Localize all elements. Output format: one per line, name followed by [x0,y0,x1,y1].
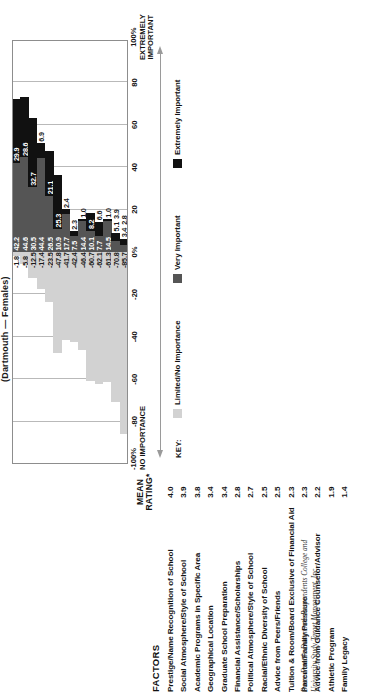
mean-rating-value: 2.7 [246,472,255,512]
arrow-head-right-icon [157,46,163,54]
x-axis-tick-label: 60 [130,121,139,129]
arrow-shaft [160,54,161,450]
mean-rating-value: 2.3 [287,472,296,512]
mean-rating-line2: RATING* [145,472,154,512]
x-axis-tick-label: 40 [130,163,139,171]
chart-sheet: (Dartmouth — Females) FACTORS MEAN RATIN… [0,0,365,698]
mean-rating-value: 3.8 [193,472,202,512]
mean-rating-value: 2.2 [313,472,322,512]
mean-rating-value: 3.4 [220,472,229,512]
legend-swatch [173,274,182,283]
mean-rating-value: 2.5 [273,472,282,512]
x-axis-tick-label: 80 [130,78,139,86]
factor-label: Racial/Ethnic Diversity of School [260,567,269,692]
factor-label: Financial Assistance/Scholarships [233,561,242,692]
chart-title: (Dartmouth — Females) [0,276,10,382]
importance-direction-arrow [156,46,165,458]
legend-key-label: KEY: [174,439,183,458]
legend-swatch [173,409,182,418]
mean-rating-value: 4.0 [166,472,175,512]
x-axis-tick-label: -40 [130,331,139,342]
legend-label: Extremely Important [173,80,182,155]
legend-label: Very Important [173,215,182,270]
mean-rating-value: 2.5 [260,472,269,512]
x-axis-tick-label: 20 [130,205,139,213]
factor-label: Social Atmosphere/Style of School [179,560,188,692]
factor-label: Graduate School Preparation [220,581,229,692]
axis-right-endpoint-line3: IMPORTANT [147,14,156,60]
axis-right-endpoint: 100% EXTREMELY IMPORTANT [130,14,156,60]
factor-label: Political Atmosphere/Style of School [246,553,255,692]
factor-label: Geographical Location [206,605,215,692]
mean-rating-value: 1.4 [340,472,349,512]
mean-rating-value: 2.3 [300,472,309,512]
axis-left-endpoint-line2: NO IMPORTANCE [139,406,148,470]
mean-rating-value: 1.9 [327,472,336,512]
factor-label: Athletic Program [327,628,336,692]
chart-legend: KEY: Limited/No ImportanceVery Important… [172,38,186,458]
factor-label: Prestige/Name Recognition of School [166,549,175,692]
legend-swatch [173,159,182,168]
rotated-page-wrapper: (Dartmouth — Females) FACTORS MEAN RATIN… [0,0,365,698]
plot-border [12,40,128,464]
factor-label: Tuition & Room/Board Exclusive of Financ… [287,507,296,692]
source-footnote: Base: Female Dartmouth Respondents Colle… [300,512,319,692]
legend-label: Limited/No Importance [173,321,182,405]
factor-label: Academic Programs in Specific Area [193,553,202,692]
mean-rating-value: 2.8 [233,472,242,512]
axis-left-endpoint: -100% NO IMPORTANCE [130,406,147,470]
x-axis-tick-label: 0% [130,247,139,258]
mean-rating-value: 3.9 [179,472,188,512]
column-header-factors: FACTORS [150,645,161,692]
column-header-mean-rating: MEAN RATING* [136,472,155,512]
factor-label: Advice from Peers/Friends [273,591,282,692]
plot-area: -1.842.229.9-5.844.628.6-12.530.532.7-17… [12,40,128,464]
x-axis-ticks: -80-60-40-200%20406080 [130,40,142,464]
x-axis-tick-label: -60 [130,374,139,385]
factor-label: Family Legacy [340,637,349,692]
mean-rating-value: 3.4 [206,472,215,512]
x-axis-tick-label: -20 [130,289,139,300]
arrow-head-left-icon [157,450,163,458]
